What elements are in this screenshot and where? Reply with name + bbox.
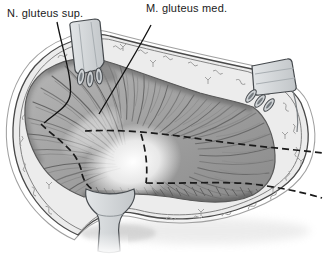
label-n-gluteus-sup: N. gluteus sup.: [7, 7, 83, 19]
surgical-exposure-drawing: [0, 0, 323, 255]
label-m-gluteus-med: M. gluteus med.: [146, 2, 227, 14]
medical-illustration: N. gluteus sup. M. gluteus med.: [0, 0, 323, 255]
